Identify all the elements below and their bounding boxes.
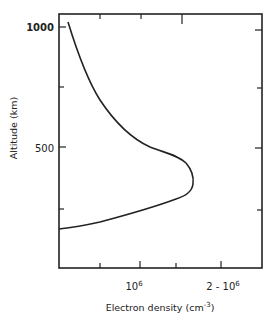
y-axis-ticks-right: [255, 30, 262, 210]
x-axis-ticks-bottom: [100, 261, 221, 268]
plot-frame: [59, 14, 262, 268]
x-tick-label-2e6: 2 - 106: [206, 280, 240, 292]
x-axis-ticks-top: [100, 14, 182, 24]
chart: 1000 500 106 2 - 106 Electron density (c…: [0, 0, 276, 319]
y-tick-label-500: 500: [35, 143, 54, 154]
y-axis-label: Altitude (km): [8, 97, 19, 159]
x-axis-label: Electron density (cm-3): [106, 301, 215, 313]
electron-density-curve: [59, 22, 193, 229]
y-tick-label-1000: 1000: [26, 22, 54, 33]
x-tick-label-1e6: 106: [125, 280, 143, 292]
y-axis-ticks-left: [59, 27, 66, 209]
